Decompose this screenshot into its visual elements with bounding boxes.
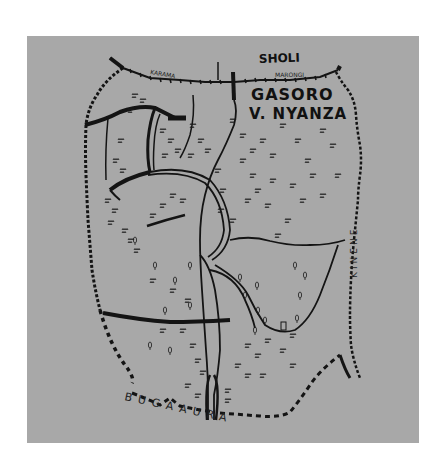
map-subtitle: V. NYANZA <box>249 105 347 123</box>
hand-drawn-map: SHOLI MARONGI KARAMA GASORO V. NYANZA KI… <box>0 0 441 472</box>
label-marongi: MARONGI <box>275 71 304 78</box>
east-loop-roads <box>210 238 345 332</box>
map-title: GASORO <box>251 85 334 104</box>
label-kinene: KINENE <box>349 227 359 278</box>
main-road <box>148 100 236 420</box>
building-icon <box>281 322 286 330</box>
label-sholi: SHOLI <box>259 51 300 66</box>
thick-roads <box>85 95 230 322</box>
south-road-fork <box>206 355 350 420</box>
